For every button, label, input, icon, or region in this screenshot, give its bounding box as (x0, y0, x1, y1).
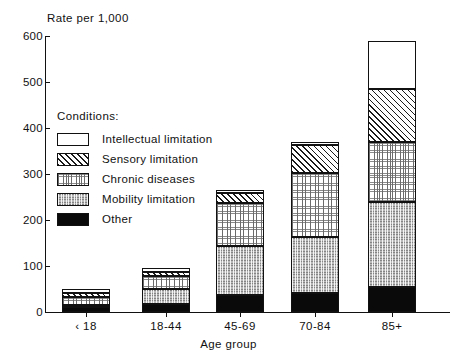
y-tick-mark (45, 266, 50, 267)
y-tick-label: 200 (5, 214, 43, 226)
bar-segment-sensory-limitation (291, 145, 339, 173)
bar-segment-chronic-diseases (216, 203, 264, 247)
legend-title: Conditions: (57, 110, 212, 122)
bar-85+ (368, 41, 416, 312)
x-tick-mark (392, 312, 393, 317)
bar-segment-mobility-limitation (216, 246, 264, 294)
legend-item: Intellectual limitation (57, 129, 212, 149)
legend-label: Sensory limitation (102, 153, 198, 165)
y-tick-label: 600 (5, 30, 43, 42)
x-tick-label: 45-69 (224, 320, 255, 332)
legend-swatch-empty-white (57, 133, 89, 146)
legend-label: Chronic diseases (102, 173, 195, 185)
bar-segment-intellectual-limitation (368, 41, 416, 89)
y-tick-label: 500 (5, 76, 43, 88)
bar-segment-sensory-limitation (62, 293, 110, 297)
legend-swatch-fine-dots (57, 173, 89, 186)
y-tick-mark (45, 82, 50, 83)
legend-item: Sensory limitation (57, 149, 212, 169)
y-axis-title: Rate per 1,000 (47, 12, 129, 24)
bar-segment-chronic-diseases (142, 276, 190, 289)
legend-swatch-solid-black (57, 213, 89, 226)
bar-segment-chronic-diseases (291, 173, 339, 237)
x-tick-mark (166, 312, 167, 317)
bar-segment-other (142, 304, 190, 312)
bar-segment-intellectual-limitation (216, 190, 264, 193)
x-tick-mark (240, 312, 241, 317)
bar-segment-chronic-diseases (368, 142, 416, 202)
bar-segment-mobility-limitation (142, 289, 190, 304)
bar-segment-other (216, 295, 264, 312)
legend-item: Other (57, 209, 212, 229)
bar-segment-other (62, 307, 110, 312)
y-tick-mark (45, 174, 50, 175)
x-tick-mark (86, 312, 87, 317)
y-tick-mark (45, 128, 50, 129)
legend-label: Other (102, 213, 132, 225)
legend-swatch-checkered-gray (57, 193, 89, 206)
bar-segment-intellectual-limitation (62, 289, 110, 293)
legend-item: Chronic diseases (57, 169, 212, 189)
bar-segment-mobility-limitation (62, 305, 110, 307)
bar-segment-chronic-diseases (62, 297, 110, 305)
bar-chart: Rate per 1,000 0100200300400500600 ‹ 181… (0, 0, 457, 361)
y-tick-label: 100 (5, 260, 43, 272)
y-tick-label: 300 (5, 168, 43, 180)
x-tick-label: 18-44 (150, 320, 181, 332)
bar-1844 (142, 268, 190, 312)
legend-swatch-diagonal-hatch (57, 153, 89, 166)
legend-label: Mobility limitation (102, 193, 195, 205)
y-tick-label: 400 (5, 122, 43, 134)
y-tick-label: 0 (5, 306, 43, 318)
y-tick-mark (45, 36, 50, 37)
legend-label: Intellectual limitation (102, 133, 212, 145)
x-tick-label: 85+ (382, 320, 403, 332)
bar-7084 (291, 142, 339, 312)
bar-segment-other (291, 293, 339, 312)
bar-segment-intellectual-limitation (291, 142, 339, 146)
bar-segment-intellectual-limitation (142, 268, 190, 271)
x-axis-line (45, 312, 450, 313)
bar-segment-sensory-limitation (142, 272, 190, 277)
y-tick-mark (45, 312, 50, 313)
bar-segment-other (368, 287, 416, 312)
y-tick-mark (45, 220, 50, 221)
x-tick-label: ‹ 18 (75, 320, 96, 332)
chart-legend: Conditions: Intellectual limitationSenso… (57, 110, 212, 229)
x-axis-title: Age group (0, 338, 457, 350)
bar-4569 (216, 190, 264, 312)
bar-segment-mobility-limitation (368, 202, 416, 287)
legend-item: Mobility limitation (57, 189, 212, 209)
bar-segment-mobility-limitation (291, 237, 339, 292)
bar-segment-sensory-limitation (368, 89, 416, 142)
x-tick-mark (315, 312, 316, 317)
x-tick-label: 70-84 (299, 320, 330, 332)
bar-segment-sensory-limitation (216, 193, 264, 202)
bar-18 (62, 289, 110, 312)
